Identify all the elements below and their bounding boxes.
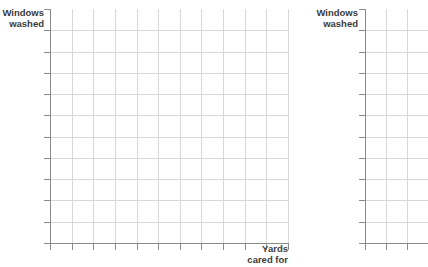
- secondary-grid-lines: [365, 9, 428, 243]
- x-axis-tick: [180, 244, 181, 250]
- primary-plot-area[interactable]: [50, 9, 288, 243]
- x-axis-tick: [93, 244, 94, 250]
- grid-line-vertical: [137, 9, 138, 243]
- grid-line-horizontal: [50, 222, 288, 223]
- grid-line-horizontal: [365, 73, 428, 74]
- y-axis-tick: [359, 222, 365, 223]
- grid-line-horizontal: [365, 137, 428, 138]
- y-axis-tick: [359, 94, 365, 95]
- grid-line-vertical: [158, 9, 159, 243]
- y-axis-tick: [44, 200, 50, 201]
- grid-line-horizontal: [365, 222, 428, 223]
- primary-x-axis-label: Yards cared for: [190, 243, 288, 265]
- x-axis-tick: [365, 244, 366, 250]
- y-axis-tick: [359, 200, 365, 201]
- y-axis-tick: [359, 9, 365, 10]
- primary-y-axis-label: Windows washed: [0, 7, 44, 29]
- y-axis-tick: [359, 115, 365, 116]
- y-axis-tick: [359, 52, 365, 53]
- y-axis-tick: [44, 115, 50, 116]
- grid-line-horizontal: [50, 200, 288, 201]
- x-axis-tick: [137, 244, 138, 250]
- x-axis-tick: [158, 244, 159, 250]
- y-axis-tick: [359, 158, 365, 159]
- grid-line-horizontal: [50, 52, 288, 53]
- primary-y-axis-line: [50, 9, 51, 244]
- grid-line-horizontal: [365, 115, 428, 116]
- y-axis-tick: [44, 179, 50, 180]
- y-axis-tick: [44, 9, 50, 10]
- grid-line-vertical: [288, 9, 289, 243]
- grid-line-horizontal: [365, 200, 428, 201]
- grid-line-vertical: [72, 9, 73, 243]
- y-axis-tick: [359, 137, 365, 138]
- grid-line-vertical: [266, 9, 267, 243]
- grid-line-vertical: [407, 9, 408, 243]
- grid-line-horizontal: [365, 179, 428, 180]
- primary-grid-lines: [50, 9, 288, 243]
- secondary-plot-area[interactable]: [365, 9, 428, 243]
- y-axis-tick: [359, 179, 365, 180]
- secondary-x-axis-line: [365, 243, 428, 244]
- grid-line-horizontal: [50, 115, 288, 116]
- y-axis-tick: [44, 52, 50, 53]
- grid-line-horizontal: [50, 73, 288, 74]
- grid-line-vertical: [201, 9, 202, 243]
- y-axis-tick: [44, 73, 50, 74]
- x-axis-tick: [72, 244, 73, 250]
- grid-line-horizontal: [50, 137, 288, 138]
- grid-line-vertical: [223, 9, 224, 243]
- grid-line-horizontal: [365, 94, 428, 95]
- grid-line-horizontal: [50, 158, 288, 159]
- y-axis-tick: [44, 222, 50, 223]
- grid-line-horizontal: [365, 30, 428, 31]
- x-axis-tick: [288, 244, 289, 250]
- grid-line-vertical: [180, 9, 181, 243]
- y-axis-tick: [359, 73, 365, 74]
- y-axis-tick: [44, 30, 50, 31]
- y-axis-tick: [44, 158, 50, 159]
- y-axis-tick: [44, 94, 50, 95]
- x-axis-tick: [407, 244, 408, 250]
- x-axis-tick: [50, 244, 51, 250]
- x-axis-tick: [115, 244, 116, 250]
- grid-line-horizontal: [365, 158, 428, 159]
- grid-line-horizontal: [50, 179, 288, 180]
- y-axis-tick: [359, 30, 365, 31]
- grid-line-vertical: [386, 9, 387, 243]
- primary-chart-figure: Windows washed Yards cared for: [0, 0, 300, 267]
- secondary-y-axis-label: Windows washed: [311, 7, 358, 29]
- x-axis-tick: [386, 244, 387, 250]
- grid-line-horizontal: [365, 52, 428, 53]
- grid-line-vertical: [93, 9, 94, 243]
- grid-line-vertical: [115, 9, 116, 243]
- grid-line-horizontal: [50, 94, 288, 95]
- grid-line-horizontal: [50, 30, 288, 31]
- grid-line-vertical: [245, 9, 246, 243]
- secondary-y-axis-line: [365, 9, 366, 244]
- y-axis-tick: [44, 137, 50, 138]
